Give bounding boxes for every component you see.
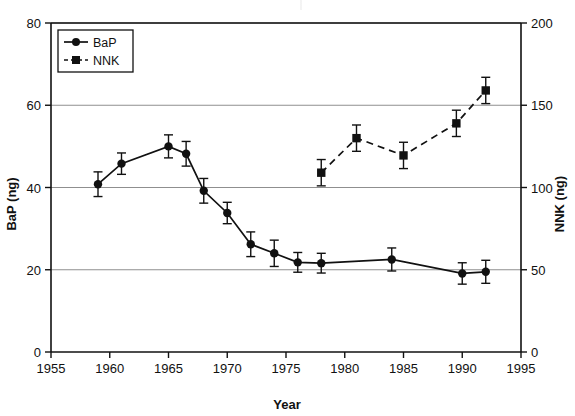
y-axis-left-tick-labels: 020406080 (27, 16, 41, 360)
x-axis-label: Year (273, 397, 300, 412)
y-axis-right-label: NNK (ng) (552, 176, 567, 232)
data-point-marker (247, 240, 255, 248)
y2-tick-label: 50 (531, 263, 545, 278)
scan-artifact (300, 0, 570, 10)
data-point-marker (452, 119, 460, 127)
x-tick-label: 1965 (154, 361, 183, 376)
series-nnk (317, 77, 491, 186)
data-point-marker (352, 134, 360, 142)
data-point-marker (388, 255, 396, 263)
y-tick-label: 80 (27, 16, 41, 31)
legend-label: NNK (93, 54, 120, 68)
x-tick-label: 1985 (389, 361, 418, 376)
x-tick-label: 1995 (507, 361, 536, 376)
y-tick-label: 60 (27, 98, 41, 113)
y2-tick-label: 0 (531, 345, 538, 360)
data-point-marker (164, 142, 172, 150)
data-point-marker (399, 151, 407, 159)
y-axis-left-ticks (45, 23, 51, 352)
x-tick-label: 1960 (95, 361, 124, 376)
y-tick-label: 20 (27, 263, 41, 278)
y2-tick-label: 100 (531, 181, 553, 196)
y2-tick-label: 150 (531, 98, 553, 113)
x-tick-label: 1990 (448, 361, 477, 376)
data-point-marker (482, 86, 490, 94)
data-point-marker (294, 258, 302, 266)
x-tick-label: 1975 (272, 361, 301, 376)
x-axis-ticks (51, 352, 521, 358)
y-tick-label: 0 (34, 345, 41, 360)
data-point-marker (94, 180, 102, 188)
legend-label: BaP (93, 36, 117, 50)
chart-figure: 195519601965197019751980198519901995 020… (0, 0, 575, 416)
y-axis-right-tick-labels: 050100150200 (531, 16, 553, 360)
y-axis-left-label: BaP (ng) (4, 177, 19, 230)
data-point-marker (223, 209, 231, 217)
x-axis-tick-labels: 195519601965197019751980198519901995 (37, 361, 536, 376)
data-point-marker (317, 168, 325, 176)
y2-tick-label: 200 (531, 16, 553, 31)
line-chart-canvas: 195519601965197019751980198519901995 020… (0, 0, 575, 416)
x-tick-label: 1970 (213, 361, 242, 376)
legend-marker (72, 56, 80, 64)
data-series-layer (94, 77, 491, 284)
legend-marker (72, 38, 80, 46)
data-point-marker (200, 187, 208, 195)
data-point-marker (270, 249, 278, 257)
data-point-marker (182, 150, 190, 158)
x-tick-label: 1980 (330, 361, 359, 376)
data-point-marker (117, 159, 125, 167)
data-point-marker (482, 268, 490, 276)
x-tick-label: 1955 (37, 361, 66, 376)
series-line (98, 146, 486, 273)
chart-legend: BaPNNK (58, 30, 133, 72)
series-bap (94, 135, 491, 284)
data-point-marker (458, 269, 466, 277)
y-tick-label: 40 (27, 181, 41, 196)
data-point-marker (317, 259, 325, 267)
y-axis-right-ticks (521, 23, 527, 352)
